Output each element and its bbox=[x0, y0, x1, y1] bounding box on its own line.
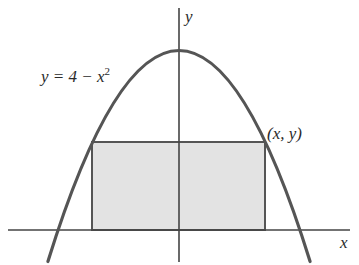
point-label: (x, y) bbox=[267, 124, 302, 143]
y-axis-label: y bbox=[183, 7, 193, 26]
diagram-canvas: y = 4 − x2 (x, y) y x bbox=[0, 0, 359, 265]
curve-equation-label: y = 4 − x2 bbox=[39, 65, 110, 86]
x-axis-label: x bbox=[339, 233, 348, 252]
